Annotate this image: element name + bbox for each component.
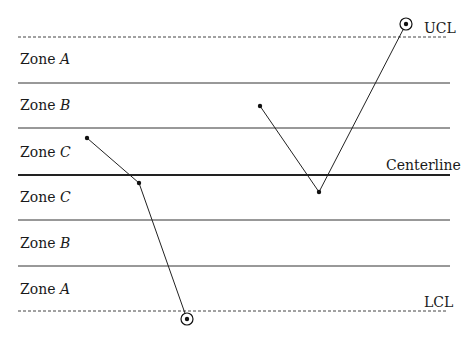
- data-point: [85, 136, 89, 140]
- zone-label-lower-b: Zone B: [20, 235, 70, 251]
- zone-label-lower-a: Zone A: [20, 281, 70, 297]
- data-point: [185, 317, 189, 321]
- centerline-label: Centerline: [386, 157, 461, 173]
- zone-label-upper-a: Zone A: [20, 51, 70, 67]
- zone-label-upper-c: Zone C: [20, 144, 71, 160]
- ucl-label: UCL: [424, 20, 456, 36]
- run-1-path: [87, 138, 187, 319]
- zone-label-upper-b: Zone B: [20, 97, 70, 113]
- data-point: [317, 190, 321, 194]
- lcl-label: LCL: [424, 294, 453, 310]
- data-point: [258, 104, 262, 108]
- data-point: [137, 181, 141, 185]
- run-2-path: [260, 24, 406, 192]
- data-point: [404, 22, 408, 26]
- zone-label-lower-c: Zone C: [20, 189, 71, 205]
